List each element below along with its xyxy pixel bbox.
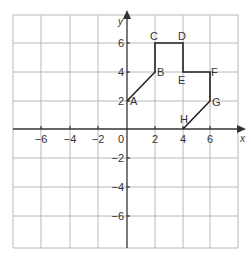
y-axis-label: y <box>117 16 124 27</box>
x-tick-label: −2 <box>92 133 105 145</box>
y-tick-label: −2 <box>111 152 124 164</box>
point-label-f: F <box>211 66 218 78</box>
point-label-b: B <box>157 66 164 78</box>
origin-label: 0 <box>118 133 124 145</box>
x-axis-label: x <box>239 133 246 144</box>
grid <box>13 15 238 248</box>
point-label-d: D <box>178 30 186 42</box>
point-label-c: C <box>150 30 158 42</box>
x-tick-label: 2 <box>152 133 158 145</box>
point-label-g: G <box>212 96 221 108</box>
point-label-a: A <box>130 95 138 107</box>
axes <box>13 16 240 248</box>
y-tick-label: −4 <box>111 181 124 193</box>
x-tick-labels: −6 −4 −2 2 4 6 0 <box>35 133 213 145</box>
y-tick-label: −6 <box>111 210 124 222</box>
point-labels: A B C D E F G H <box>130 30 221 125</box>
polygon-shape <box>127 43 210 129</box>
point-label-h: H <box>180 113 188 125</box>
y-tick-label: 4 <box>118 66 124 78</box>
x-tick-label: −6 <box>35 133 48 145</box>
x-tick-label: 6 <box>207 133 213 145</box>
x-axis-arrow-icon <box>237 125 246 133</box>
y-tick-label: 6 <box>118 37 124 49</box>
coordinate-grid-figure: −6 −4 −2 2 4 6 0 6 4 2 −2 −4 −6 y x A B … <box>0 0 251 260</box>
point-label-e: E <box>178 74 185 86</box>
x-tick-label: −4 <box>64 133 77 145</box>
x-tick-label: 4 <box>180 133 186 145</box>
y-tick-label: 2 <box>118 95 124 107</box>
